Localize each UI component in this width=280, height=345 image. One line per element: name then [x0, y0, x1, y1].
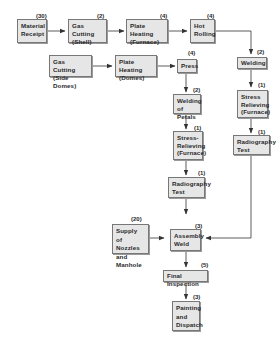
node-stress-relieving-shell: Stress Relieving (Furnace) — [237, 90, 268, 118]
duration-stress-relieving-shell: (1) — [258, 82, 265, 89]
node-final-inspection: Final Inspection — [163, 270, 208, 282]
node-press: Press — [177, 59, 197, 73]
duration-painting-dispatch: (3) — [193, 294, 200, 301]
node-gas-cutting-side-domes: Gas Cutting (Side Domes) — [49, 55, 92, 77]
duration-welding-of-petals: (2) — [193, 87, 200, 94]
node-painting-dispatch: Painting and Dispatch — [172, 301, 200, 331]
node-plate-heating-furnace: Plate Heating (Furnace) — [126, 19, 168, 43]
node-radiography-test-domes: Radiography Test — [168, 177, 205, 198]
duration-press: (4) — [188, 50, 195, 57]
connector-arrows — [0, 0, 280, 345]
node-supply-nozzles-manhole: Supply of Nozzles and Manhole — [112, 224, 149, 254]
duration-welding: (2) — [257, 49, 264, 56]
node-stress-relieving-domes: Stress- Relieving (Furnace) — [173, 131, 203, 160]
duration-final-inspection: (5) — [201, 262, 208, 269]
node-assembly-weld: Assembly Weld — [170, 229, 201, 251]
node-gas-cutting-shell: Gas Cutting (Shell) — [68, 19, 107, 43]
process-flowchart: (30) Material Receipt (2) Gas Cutting (S… — [0, 0, 280, 345]
node-welding: Welding — [237, 57, 267, 69]
node-radiography-test-shell: Radiography Test — [233, 135, 270, 155]
duration-supply-nozzles-manhole: (20) — [131, 216, 142, 223]
node-hot-rolling: Hot Rolling — [190, 19, 215, 43]
node-welding-of-petals: Welding of Petals — [173, 94, 201, 114]
node-plate-heating-domes: Plate Heating (Domes) — [115, 55, 157, 77]
duration-radiography-test-domes: (1) — [198, 170, 205, 177]
node-material-receipt: Material Receipt — [17, 19, 47, 43]
